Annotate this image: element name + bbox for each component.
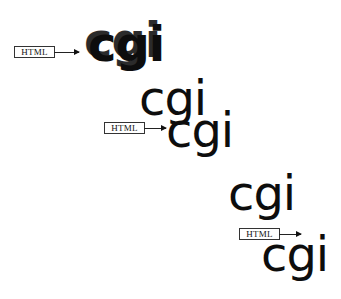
- cgi-output-1: cgi: [88, 20, 164, 68]
- html-label-box-2: HTML: [104, 122, 145, 134]
- diagram-canvas: HTML cgi cgi cgi HTML cgi cgi HTML cgi: [0, 0, 341, 299]
- arrow-icon-1: [54, 52, 79, 53]
- cgi-output-2: cgi: [166, 106, 233, 154]
- cgi-previous-output-3: cgi: [228, 169, 295, 217]
- html-label-box-1: HTML: [14, 46, 55, 58]
- arrow-icon-2: [144, 128, 166, 129]
- cgi-output-3: cgi: [261, 230, 328, 278]
